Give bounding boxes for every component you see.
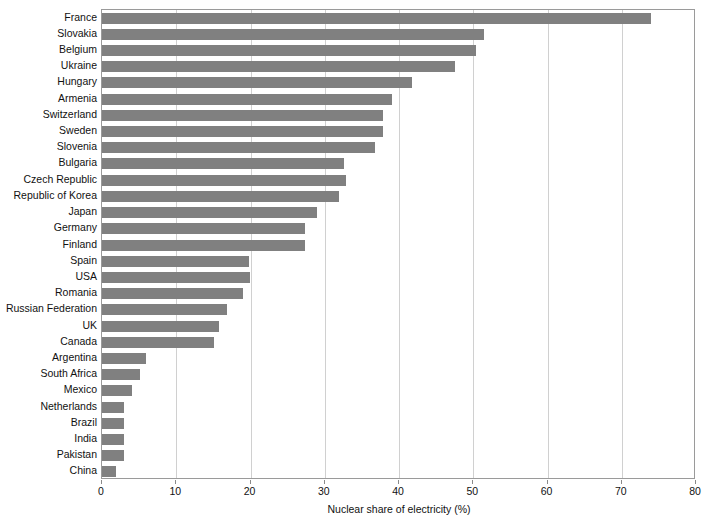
x-tick-label: 60 xyxy=(541,485,553,497)
x-tick-label: 50 xyxy=(466,485,478,497)
bars-layer xyxy=(102,10,694,478)
category-label: Germany xyxy=(0,222,97,233)
bar xyxy=(102,402,124,413)
category-label: Spain xyxy=(0,255,97,266)
category-label: India xyxy=(0,433,97,444)
bar xyxy=(102,434,124,445)
x-tick-label: 70 xyxy=(615,485,627,497)
bar xyxy=(102,466,116,477)
x-tick-mark xyxy=(621,480,622,484)
bar xyxy=(102,321,219,332)
category-label: Bulgaria xyxy=(0,157,97,168)
bar xyxy=(102,337,214,348)
bar xyxy=(102,304,227,315)
bar xyxy=(102,94,392,105)
x-tick-label: 40 xyxy=(392,485,404,497)
bar xyxy=(102,240,305,251)
category-label: Republic of Korea xyxy=(0,190,97,201)
x-tick-mark xyxy=(547,480,548,484)
x-tick-label: 80 xyxy=(689,485,701,497)
bar xyxy=(102,450,124,461)
x-tick-label: 0 xyxy=(98,485,104,497)
bar xyxy=(102,418,124,429)
x-tick-mark xyxy=(398,480,399,484)
category-label: Sweden xyxy=(0,125,97,136)
category-label: Finland xyxy=(0,239,97,250)
bar xyxy=(102,191,339,202)
category-label: Ukraine xyxy=(0,60,97,71)
x-tick-mark xyxy=(472,480,473,484)
x-tick-mark xyxy=(695,480,696,484)
x-axis-title-text: Nuclear share of electricity (%) xyxy=(328,503,471,515)
category-label: Czech Republic xyxy=(0,174,97,185)
x-tick-mark xyxy=(250,480,251,484)
bar xyxy=(102,110,383,121)
x-tick-mark xyxy=(101,480,102,484)
bar xyxy=(102,77,412,88)
bar xyxy=(102,45,476,56)
category-label: Hungary xyxy=(0,76,97,87)
category-label: Mexico xyxy=(0,384,97,395)
category-label: Netherlands xyxy=(0,401,97,412)
category-label: Russian Federation xyxy=(0,303,97,314)
category-label: UK xyxy=(0,320,97,331)
category-label: Argentina xyxy=(0,352,97,363)
category-label: Belgium xyxy=(0,44,97,55)
plot-area xyxy=(101,9,695,479)
category-label: China xyxy=(0,465,97,476)
bar xyxy=(102,272,250,283)
bar xyxy=(102,288,243,299)
bar-chart: FranceSlovakiaBelgiumUkraineHungaryArmen… xyxy=(0,0,710,523)
x-tick-label: 30 xyxy=(318,485,330,497)
bar xyxy=(102,126,383,137)
bar xyxy=(102,13,651,24)
x-tick-mark xyxy=(324,480,325,484)
bar xyxy=(102,175,346,186)
bar xyxy=(102,385,132,396)
category-label: Armenia xyxy=(0,93,97,104)
x-tick-label: 20 xyxy=(244,485,256,497)
bar xyxy=(102,369,140,380)
category-label: Japan xyxy=(0,206,97,217)
bar xyxy=(102,142,375,153)
category-label: Switzerland xyxy=(0,109,97,120)
category-label: USA xyxy=(0,271,97,282)
x-axis-title: Nuclear share of electricity (%) xyxy=(0,503,710,515)
category-axis: FranceSlovakiaBelgiumUkraineHungaryArmen… xyxy=(0,9,97,479)
category-label: Slovenia xyxy=(0,141,97,152)
bar xyxy=(102,353,146,364)
category-label: Canada xyxy=(0,336,97,347)
bar xyxy=(102,158,344,169)
bar xyxy=(102,29,484,40)
bar xyxy=(102,61,455,72)
x-tick-mark xyxy=(175,480,176,484)
category-label: Slovakia xyxy=(0,28,97,39)
x-tick-label: 10 xyxy=(169,485,181,497)
bar xyxy=(102,207,317,218)
bar xyxy=(102,256,249,267)
category-label: Romania xyxy=(0,287,97,298)
category-label: South Africa xyxy=(0,368,97,379)
category-label: France xyxy=(0,12,97,23)
category-label: Pakistan xyxy=(0,449,97,460)
value-axis: 01020304050607080 xyxy=(101,480,695,502)
bar xyxy=(102,223,305,234)
category-label: Brazil xyxy=(0,417,97,428)
